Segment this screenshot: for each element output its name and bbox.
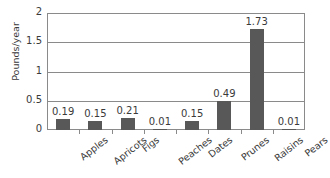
y-tick-label-0.5: 0.5 xyxy=(2,95,42,105)
bar-apples[interactable] xyxy=(56,119,70,130)
bar-slot: 0.15 xyxy=(176,13,208,130)
bar-slot: 0.01 xyxy=(144,13,176,130)
bars-layer: 0.190.150.210.010.150.491.730.01 xyxy=(47,13,305,130)
bar-slot: 0.01 xyxy=(273,13,305,130)
y-tick-label-0: 0 xyxy=(2,124,42,134)
bar-slot: 0.15 xyxy=(79,13,111,130)
bar-value-label: 0.15 xyxy=(84,109,106,119)
bar-slot: 1.73 xyxy=(241,13,273,130)
bar-prunes[interactable] xyxy=(217,101,231,130)
y-axis-title: Pounds/year xyxy=(10,7,21,97)
bar-apricots[interactable] xyxy=(88,121,102,130)
x-axis-category-labels: ApplesApricotsFigsPeachesDatesPrunesRais… xyxy=(47,134,305,178)
y-tick-label-1: 1 xyxy=(2,66,42,76)
bar-value-label: 0.15 xyxy=(181,109,203,119)
bar-slot: 0.21 xyxy=(112,13,144,130)
x-label-prunes: Prunes xyxy=(239,134,271,163)
bar-slot: 0.49 xyxy=(208,13,240,130)
bar-dates[interactable] xyxy=(185,121,199,130)
bar-value-label: 0.01 xyxy=(149,117,171,127)
bar-raisins[interactable] xyxy=(250,29,264,130)
y-tick-label-1.5: 1.5 xyxy=(2,36,42,46)
x-label-apples: Apples xyxy=(78,134,110,162)
bar-value-label: 0.49 xyxy=(213,89,235,99)
x-label-pears: Pears xyxy=(302,134,329,159)
bar-figs[interactable] xyxy=(121,118,135,130)
bar-slot: 0.19 xyxy=(47,13,79,130)
y-tick-label-2: 2 xyxy=(2,7,42,17)
x-label-raisins: Raisins xyxy=(272,134,305,163)
bar-value-label: 0.19 xyxy=(52,107,74,117)
bar-value-label: 0.21 xyxy=(116,106,138,116)
bar-value-label: 1.73 xyxy=(245,17,267,27)
bar-value-label: 0.01 xyxy=(278,117,300,127)
